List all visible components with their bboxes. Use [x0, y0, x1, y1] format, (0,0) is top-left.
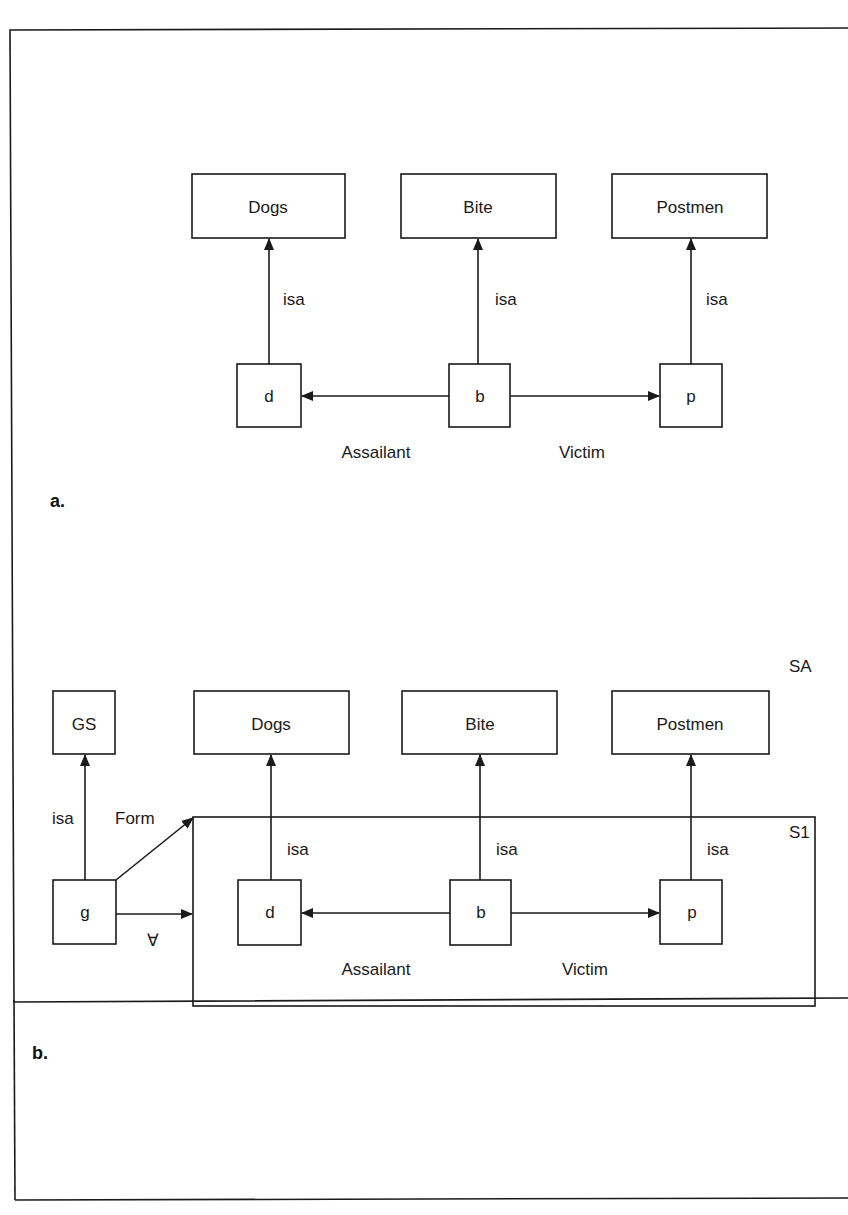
isa-label: isa	[707, 840, 729, 859]
instance-label-d: d	[264, 387, 273, 406]
type-label-bite: Bite	[463, 198, 492, 217]
victim-label: Victim	[559, 443, 605, 462]
isa-label: isa	[283, 290, 305, 309]
instance-label-p: p	[686, 387, 695, 406]
type-label-dogs: Dogs	[251, 715, 291, 734]
figure-frame-left-lower	[14, 1000, 15, 1200]
semantic-network-figure: Dogs Bite Postmen d b p isa isa isa Assa…	[0, 0, 848, 1215]
isa-label: isa	[52, 809, 74, 828]
panel-a: Dogs Bite Postmen d b p isa isa isa Assa…	[50, 174, 767, 511]
isa-label: isa	[706, 290, 728, 309]
type-label-postmen: Postmen	[656, 198, 723, 217]
instance-label-g: g	[80, 903, 89, 922]
subspace-label-s1: S1	[789, 823, 810, 842]
forall-label: ∀	[147, 931, 159, 950]
victim-label: Victim	[562, 960, 608, 979]
instance-label-b: b	[475, 387, 484, 406]
type-label-bite: Bite	[465, 715, 494, 734]
instance-label-p: p	[687, 903, 696, 922]
type-label-postmen: Postmen	[656, 715, 723, 734]
assailant-label: Assailant	[342, 443, 411, 462]
isa-label: isa	[287, 840, 309, 859]
space-label-sa: SA	[789, 657, 812, 676]
panel-label-a: a.	[50, 491, 65, 511]
assailant-label: Assailant	[342, 960, 411, 979]
isa-label: isa	[496, 840, 518, 859]
type-label-gs: GS	[72, 715, 97, 734]
instance-label-d: d	[265, 903, 274, 922]
instance-label-b: b	[476, 903, 485, 922]
type-label-dogs: Dogs	[248, 198, 288, 217]
figure-frame-bottom	[15, 1198, 848, 1200]
form-label: Form	[115, 809, 155, 828]
isa-label: isa	[495, 290, 517, 309]
panel-label-b: b.	[32, 1043, 48, 1063]
